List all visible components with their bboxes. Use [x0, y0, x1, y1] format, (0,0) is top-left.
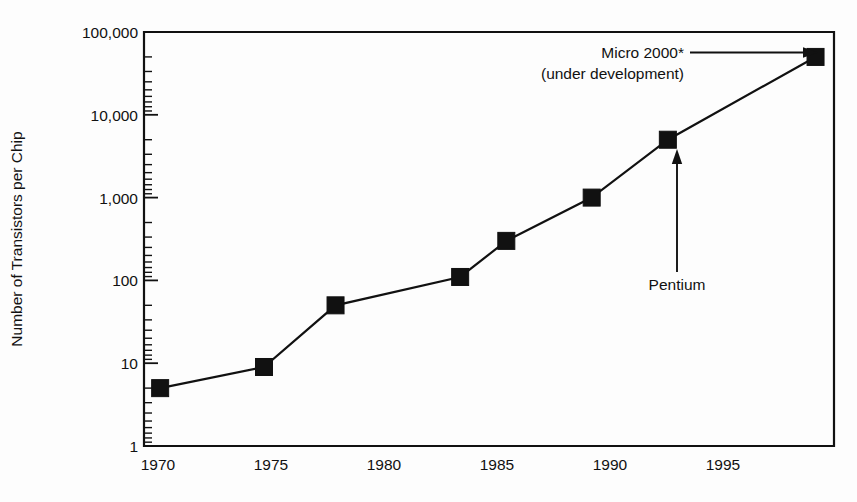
x-tick-label: 1975	[254, 456, 288, 473]
data-point-marker	[256, 358, 273, 375]
annotation-pentium-label: Pentium	[649, 276, 706, 293]
y-tick-label: 1,000	[99, 190, 138, 207]
arrow-up-icon	[672, 149, 682, 164]
data-point-marker	[327, 297, 344, 314]
transistors-per-chip-line-chart: 100,000 10,000 1,000 100 10 1 Number of …	[0, 0, 857, 502]
data-point-marker	[659, 131, 676, 148]
x-tick-label: 1985	[480, 456, 514, 473]
data-point-marker	[152, 380, 169, 397]
x-tick-label: 1970	[141, 456, 176, 473]
y-axis-tick-labels: 100,000 10,000 1,000 100 10 1	[82, 24, 138, 455]
x-tick-label: 1995	[706, 456, 740, 473]
annotation-pentium: Pentium	[649, 149, 706, 293]
chart-figure: 100,000 10,000 1,000 100 10 1 Number of …	[0, 0, 857, 502]
x-axis-tick-labels: 1970 1975 1980 1985 1990 1995	[141, 456, 740, 473]
plot-frame	[144, 32, 834, 446]
y-tick-label: 10	[121, 355, 139, 372]
data-point-marker	[583, 189, 600, 206]
y-tick-label: 100,000	[82, 24, 138, 41]
series-markers	[152, 48, 824, 396]
x-tick-label: 1990	[593, 456, 628, 473]
annotation-micro-2000-line2: (under development)	[541, 65, 684, 82]
y-tick-label: 1	[129, 438, 138, 455]
data-point-marker	[498, 232, 515, 249]
y-tick-label: 100	[112, 272, 138, 289]
x-tick-label: 1980	[367, 456, 402, 473]
data-point-marker	[452, 268, 469, 285]
y-axis-title: Number of Transistors per Chip	[8, 131, 25, 346]
data-series-transistors	[152, 48, 824, 396]
annotation-micro-2000: Micro 2000* (under development)	[541, 44, 818, 82]
y-tick-label: 10,000	[91, 107, 139, 124]
annotation-micro-2000-line1: Micro 2000*	[601, 44, 684, 61]
series-line	[160, 57, 815, 388]
